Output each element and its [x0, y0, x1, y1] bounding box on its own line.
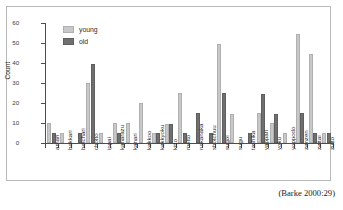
- bar-young: [113, 123, 117, 143]
- bar-old: [91, 64, 95, 143]
- x-tick-label: kanari: [132, 133, 138, 150]
- x-tick-label: bakkari: [67, 130, 73, 150]
- bar-young: [283, 133, 287, 143]
- x-tick-label: zenzen: [303, 130, 309, 150]
- x-tick-label: sugu: [237, 137, 243, 150]
- x-tick-label: yoppodo: [290, 127, 296, 150]
- figure: Count 0102030405060 amaribakkaribetchari…: [0, 0, 343, 210]
- y-tick-label: 0: [0, 140, 19, 146]
- x-tick-label: nakanaka: [198, 124, 204, 150]
- y-tick-label: 30: [0, 80, 19, 86]
- bar-young: [86, 83, 90, 143]
- y-tick-label: 20: [0, 100, 19, 106]
- legend-swatch-old: [63, 38, 74, 45]
- x-tick-label: yoku: [276, 137, 282, 150]
- y-tick-label: 10: [0, 120, 19, 126]
- bar-young: [152, 133, 156, 143]
- x-tick-label: sugoi: [224, 135, 230, 150]
- y-tick-label: 50: [0, 40, 19, 46]
- bar-young: [217, 44, 221, 143]
- x-tick-label: kanarazu: [119, 125, 125, 150]
- x-tick-label: betchari: [80, 128, 86, 150]
- x-tick-label: ippai: [106, 137, 112, 150]
- bar-young: [270, 123, 274, 143]
- chart-frame: Count 0102030405060 amaribakkaribetchari…: [6, 6, 331, 181]
- bar-young: [139, 103, 143, 143]
- bar-young: [178, 93, 182, 143]
- bar-young: [165, 124, 169, 143]
- bar-young: [257, 113, 261, 143]
- bar-young: [99, 133, 103, 143]
- bar-young: [60, 133, 64, 143]
- bar-young: [230, 114, 234, 143]
- x-tick-label: kekkyoku: [159, 125, 165, 150]
- bar-young: [296, 34, 300, 143]
- legend-item: old: [63, 37, 123, 47]
- x-tick-label: tashika: [250, 131, 256, 150]
- y-tick-label: 60: [0, 20, 19, 26]
- legend-label-old: old: [79, 37, 88, 47]
- bar-young: [309, 54, 313, 143]
- legend-swatch-young: [63, 26, 74, 33]
- y-tick-label: 40: [0, 60, 19, 66]
- chart-legend: youngold: [63, 25, 123, 49]
- x-tick-mark: [45, 144, 46, 148]
- x-tick-label: shotchuu: [211, 125, 217, 150]
- x-tick-label: zutto: [329, 137, 335, 150]
- x-tick-label: yappari: [263, 130, 269, 150]
- x-tick-label: motto: [185, 135, 191, 150]
- legend-item: young: [63, 25, 123, 35]
- x-tick-label: zettai: [316, 136, 322, 151]
- bar-young: [322, 133, 326, 143]
- x-tick-label: kekkoo: [146, 131, 152, 150]
- x-tick-label: kitto: [172, 139, 178, 150]
- citation-text: (Barke 2000:29): [278, 188, 335, 198]
- x-tick-label: amari: [54, 135, 60, 150]
- bar-young: [47, 123, 51, 143]
- bar-young: [126, 123, 130, 143]
- x-tick-label: chotto: [93, 133, 99, 150]
- legend-label-young: young: [79, 25, 98, 35]
